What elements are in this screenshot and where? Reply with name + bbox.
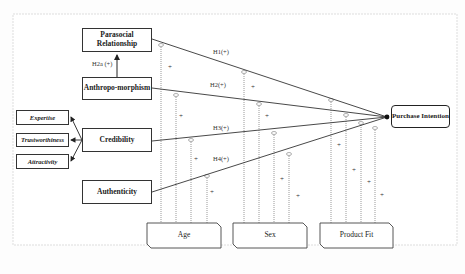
h1-label: H1(+) xyxy=(213,48,229,55)
moderation-sign: + xyxy=(352,166,356,174)
moderation-sign: + xyxy=(251,83,255,91)
h4-label: H4(+) xyxy=(213,155,229,162)
trustworthiness-label: Trustworthiness xyxy=(21,136,64,143)
attractivity-box: Attractivity xyxy=(16,154,69,169)
credibility-box: Credibility xyxy=(82,128,152,152)
attractivity-label: Attractivity xyxy=(28,158,58,165)
anthropomorphism-box: Anthropo-morphism xyxy=(82,77,152,100)
moderator-product-fit: Product Fit xyxy=(320,223,393,248)
moderation-sign: + xyxy=(296,192,300,200)
authenticity-box: Authenticity xyxy=(82,180,152,204)
trustworthiness-box: Trustworthiness xyxy=(16,133,69,147)
product-fit-label: Product Fit xyxy=(340,231,374,240)
sex-label: Sex xyxy=(264,231,275,240)
moderation-sign: + xyxy=(265,112,269,120)
age-label: Age xyxy=(178,231,191,240)
moderation-sign: + xyxy=(337,141,341,149)
parasocial-relationship-label: Parasocial Relationship xyxy=(83,31,151,48)
moderator-sex: Sex xyxy=(233,223,307,248)
moderation-sign: + xyxy=(280,175,284,183)
purchase-intention-box: Purchase Intention xyxy=(391,105,450,128)
moderation-sign: + xyxy=(380,191,384,199)
moderation-sign: + xyxy=(168,63,172,71)
moderator-age: Age xyxy=(147,223,221,248)
credibility-label: Credibility xyxy=(100,136,135,145)
parasocial-relationship-box: Parasocial Relationship xyxy=(82,28,152,52)
purchase-intention-label: Purchase Intention xyxy=(392,112,449,120)
h3-label: H3(+) xyxy=(213,124,229,131)
h2a-label: H2a (+) xyxy=(92,60,112,67)
research-model-diagram: Parasocial Relationship Anthropo-morphis… xyxy=(0,0,465,274)
moderation-sign: + xyxy=(210,188,214,196)
expertise-label: Expertise xyxy=(30,114,55,121)
moderation-sign: + xyxy=(367,178,371,186)
authenticity-label: Authenticity xyxy=(97,188,137,197)
expertise-box: Expertise xyxy=(16,110,69,125)
anthropomorphism-label: Anthropo-morphism xyxy=(84,84,151,93)
moderation-sign: + xyxy=(179,112,183,120)
moderation-sign: + xyxy=(194,155,198,163)
h2-label: H2(+) xyxy=(210,81,226,88)
